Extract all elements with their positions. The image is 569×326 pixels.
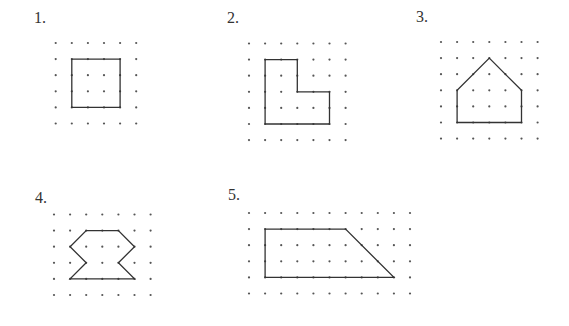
- grid-dot: [377, 292, 379, 294]
- grid-dot: [135, 42, 137, 44]
- grid-dot: [248, 260, 250, 262]
- grid-dot: [55, 42, 57, 44]
- grid-dot: [55, 106, 57, 108]
- grid-dot: [248, 139, 250, 141]
- grid-dot: [312, 260, 314, 262]
- grid-dot: [409, 244, 411, 246]
- grid-dot: [248, 42, 250, 44]
- grid-dot: [101, 213, 103, 215]
- grid-dot: [312, 212, 314, 214]
- grid-dot: [361, 212, 363, 214]
- L-shape-polygon: [265, 60, 329, 124]
- grid-dot: [440, 89, 442, 91]
- grid-dot: [248, 292, 250, 294]
- grid-dot: [150, 262, 152, 264]
- grid-dot: [328, 139, 330, 141]
- grid-dot: [312, 244, 314, 246]
- grid-dot: [488, 89, 490, 91]
- grid-dot: [53, 294, 55, 296]
- grid-dot: [328, 244, 330, 246]
- grid-dot: [103, 42, 105, 44]
- grid-dot: [472, 105, 474, 107]
- grid-dot: [456, 138, 458, 140]
- grid-dot: [440, 121, 442, 123]
- grid-dot: [135, 122, 137, 124]
- grid-dot: [328, 292, 330, 294]
- figure-4-dot-grid: [53, 213, 152, 296]
- grid-dot: [345, 292, 347, 294]
- grid-dot: [133, 230, 135, 232]
- grid-dot: [117, 294, 119, 296]
- grid-dot: [537, 57, 539, 59]
- grid-dot: [393, 244, 395, 246]
- trapezoid-polygon: [265, 229, 394, 277]
- grid-dot: [248, 228, 250, 230]
- grid-dot: [377, 244, 379, 246]
- grid-dot: [135, 74, 137, 76]
- grid-dot: [280, 139, 282, 141]
- grid-dot: [537, 89, 539, 91]
- grid-dot: [248, 107, 250, 109]
- grid-dot: [328, 42, 330, 44]
- grid-dot: [87, 74, 89, 76]
- grid-dot: [488, 73, 490, 75]
- grid-dot: [296, 42, 298, 44]
- grid-dot: [345, 244, 347, 246]
- grid-dot: [296, 139, 298, 141]
- grid-dot: [345, 91, 347, 93]
- grid-dot: [133, 294, 135, 296]
- square-polygon: [72, 59, 120, 107]
- grid-dot: [345, 75, 347, 77]
- grid-dot: [296, 260, 298, 262]
- grid-dot: [312, 75, 314, 77]
- grid-dot: [296, 244, 298, 246]
- grid-dot: [150, 294, 152, 296]
- grid-dot: [150, 230, 152, 232]
- grid-dot: [345, 123, 347, 125]
- grid-dot: [472, 89, 474, 91]
- grid-dot: [150, 278, 152, 280]
- grid-dot: [280, 75, 282, 77]
- grid-dot: [377, 228, 379, 230]
- grid-dot: [53, 278, 55, 280]
- grid-dot: [248, 123, 250, 125]
- grid-dot: [393, 212, 395, 214]
- grid-dot: [69, 294, 71, 296]
- grid-dot: [520, 73, 522, 75]
- grid-dot: [248, 75, 250, 77]
- grid-dot: [53, 246, 55, 248]
- grid-dot: [328, 260, 330, 262]
- grid-dot: [248, 212, 250, 214]
- grid-dot: [69, 230, 71, 232]
- grid-dot: [312, 292, 314, 294]
- grid-dot: [85, 213, 87, 215]
- grid-dot: [361, 228, 363, 230]
- grid-dot: [103, 122, 105, 124]
- figure-1-dot-grid: [55, 42, 138, 125]
- grid-dot: [248, 91, 250, 93]
- grid-dot: [488, 105, 490, 107]
- grid-dot: [488, 41, 490, 43]
- grid-dot: [504, 89, 506, 91]
- grid-dot: [537, 138, 539, 140]
- grid-dot: [150, 246, 152, 248]
- grid-dot: [117, 246, 119, 248]
- grid-dot: [296, 292, 298, 294]
- grid-dot: [537, 73, 539, 75]
- grid-dot: [87, 90, 89, 92]
- grid-dot: [119, 42, 121, 44]
- hourglass-octagon-polygon: [70, 231, 134, 279]
- grid-dot: [296, 107, 298, 109]
- grid-dot: [537, 121, 539, 123]
- grid-dot: [264, 42, 266, 44]
- grid-dot: [520, 57, 522, 59]
- grid-dot: [264, 212, 266, 214]
- grid-dot: [472, 57, 474, 59]
- grid-dot: [472, 138, 474, 140]
- grid-dot: [409, 212, 411, 214]
- grid-dot: [135, 58, 137, 60]
- grid-dot: [393, 228, 395, 230]
- grid-dot: [55, 74, 57, 76]
- grid-dot: [280, 212, 282, 214]
- grid-dot: [280, 292, 282, 294]
